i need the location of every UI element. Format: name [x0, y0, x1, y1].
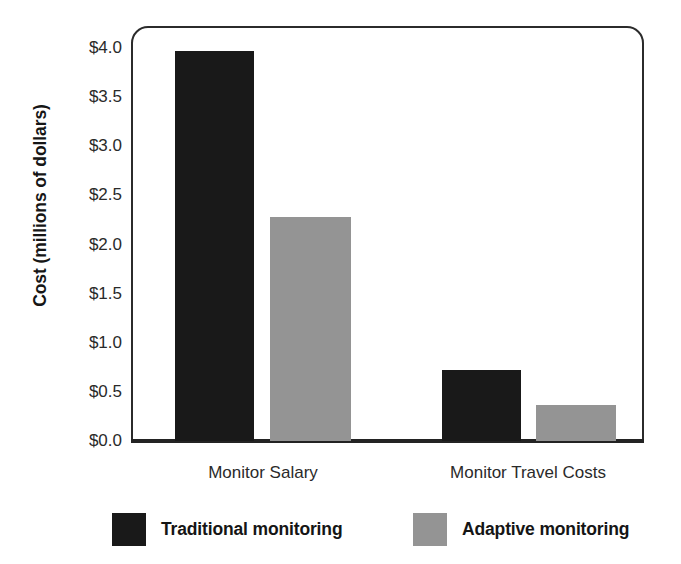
x-axis-category-label: Monitor Salary	[208, 463, 318, 483]
legend-label: Traditional monitoring	[161, 519, 342, 540]
chart-legend: Traditional monitoringAdaptive monitorin…	[0, 509, 681, 551]
bar	[536, 405, 616, 441]
bar	[175, 51, 254, 441]
legend-color-swatch	[112, 513, 146, 546]
legend-label: Adaptive monitoring	[462, 519, 629, 540]
bar	[442, 370, 521, 441]
legend-entry: Traditional monitoring	[112, 509, 342, 549]
bar-chart-figure: Cost (millions of dollars) $4.0$3.5$3.0$…	[0, 0, 681, 564]
bar	[270, 217, 351, 441]
x-axis-category-label: Monitor Travel Costs	[450, 463, 606, 483]
legend-color-swatch	[413, 513, 447, 546]
legend-entry: Adaptive monitoring	[413, 509, 629, 549]
